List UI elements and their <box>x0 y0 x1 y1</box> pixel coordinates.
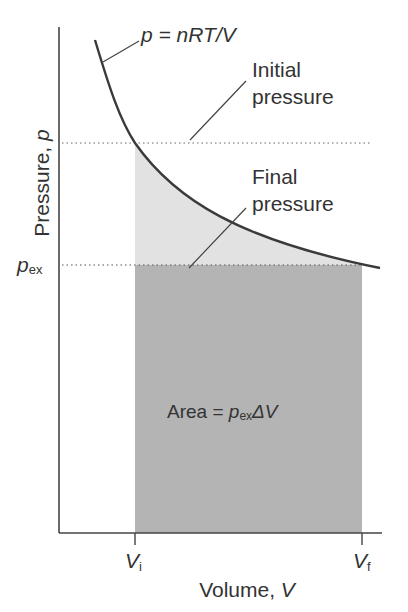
isotherm-leader-line <box>103 41 139 62</box>
vf-tick-label: Vf <box>353 549 371 574</box>
initial-pressure-leader-line <box>190 81 246 140</box>
work-area-rect <box>135 265 362 533</box>
y-axis-label: Pressure, p <box>30 129 53 236</box>
vi-tick-label: Vi <box>125 549 142 574</box>
pv-diagram: Pressure, p pex Vi Vf Volume, V p = nRT/… <box>0 0 408 612</box>
x-axis-label: Volume, V <box>199 578 297 601</box>
area-label: Area = pexΔV <box>167 401 280 423</box>
isotherm-equation: p = nRT/V <box>140 23 238 46</box>
pex-tick-label: pex <box>16 253 43 277</box>
initial-pressure-label: Initial pressure <box>252 58 334 108</box>
final-pressure-label: Final pressure <box>252 165 334 215</box>
